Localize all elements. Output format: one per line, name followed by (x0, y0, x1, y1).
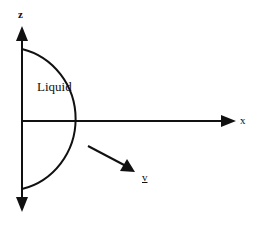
velocity-vector-line (88, 146, 126, 166)
x-axis-label: x (240, 115, 246, 126)
z-axis-label: z (18, 9, 23, 20)
diagram-canvas (0, 0, 259, 225)
liquid-region-label: Liquid (37, 80, 72, 93)
x-axis-arrow-icon (221, 115, 236, 127)
velocity-arrow-icon (120, 159, 135, 172)
z-axis-down-arrow-icon (16, 197, 28, 212)
liquid-boundary-arc (22, 49, 76, 189)
z-axis-up-arrow-icon (16, 26, 28, 41)
velocity-label: v (142, 172, 148, 183)
